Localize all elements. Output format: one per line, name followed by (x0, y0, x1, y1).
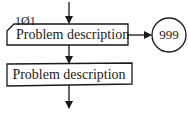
connector-label: 999 (152, 27, 186, 43)
process-box-2-text: Problem description (7, 67, 131, 83)
process-box-1-text: Problem description (16, 27, 124, 43)
